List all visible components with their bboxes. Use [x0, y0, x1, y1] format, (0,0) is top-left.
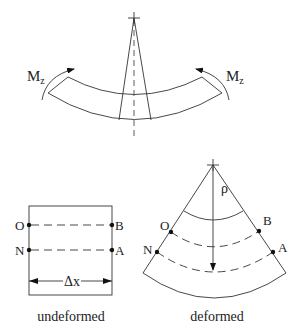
- label-A-undeformed: A: [115, 243, 125, 258]
- point-B-deformed: [257, 229, 261, 233]
- label-B-undeformed: B: [115, 218, 124, 233]
- undeformed-caption: undeformed: [37, 309, 105, 324]
- label-N-undeformed: N: [15, 243, 25, 258]
- moment-arrow-right-icon: [196, 69, 229, 100]
- label-O-undeformed: O: [15, 218, 24, 233]
- sector-outer-arc: [143, 273, 286, 298]
- point-B: [110, 223, 114, 227]
- delta-x-label: Δx: [64, 274, 80, 289]
- fiber-OB-deformed: [171, 231, 259, 247]
- point-N: [27, 248, 31, 252]
- wedge-line-left: [119, 18, 134, 120]
- beam-left-edge: [48, 77, 68, 93]
- label-N-deformed: N: [143, 242, 153, 257]
- beam-inner-arc: [68, 77, 202, 95]
- label-A-deformed: A: [278, 240, 288, 255]
- rho-label: ρ: [221, 181, 228, 196]
- point-O: [27, 223, 31, 227]
- beam-bending-diagram: Mz Mz O B N A Δx undeformed: [0, 0, 299, 335]
- point-O-deformed: [169, 230, 173, 234]
- point-A-deformed: [271, 250, 275, 254]
- deformed-caption: deformed: [190, 309, 244, 324]
- point-A: [110, 248, 114, 252]
- arrowhead-left-icon: [29, 278, 38, 284]
- point-N-deformed: [155, 250, 159, 254]
- beam-right-edge: [202, 77, 222, 93]
- beam-outer-arc: [48, 93, 222, 120]
- sector-inner-arc: [184, 211, 243, 220]
- fiber-NA-deformed: [157, 252, 273, 272]
- arrowhead-right-icon: [103, 278, 112, 284]
- moment-label-left: Mz: [27, 68, 45, 86]
- label-B-deformed: B: [263, 213, 272, 228]
- wedge-line-right: [134, 18, 151, 120]
- moment-label-right: Mz: [226, 68, 244, 86]
- label-O-deformed: O: [160, 218, 169, 233]
- bent-beam: [42, 12, 229, 140]
